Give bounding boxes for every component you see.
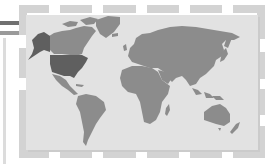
south-america [76, 94, 106, 146]
alaska-highlight [28, 32, 50, 60]
new-zealand [230, 122, 240, 134]
usa-highlight [50, 55, 88, 78]
madagascar [165, 104, 170, 116]
australia [204, 104, 230, 126]
canada-landmass [46, 26, 96, 56]
world-map [0, 0, 274, 164]
